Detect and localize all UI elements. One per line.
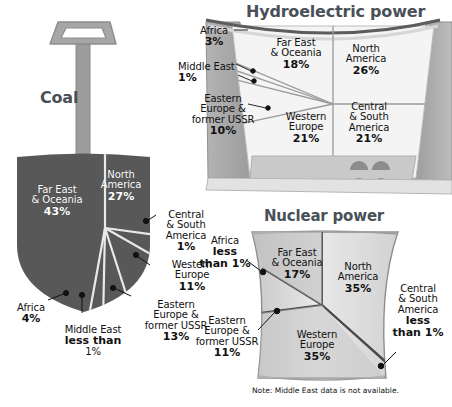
hydro-label-central-south-america: Central & South America 21% — [340, 102, 398, 145]
coal-label-middle-east: Middle East less than 1% — [54, 325, 132, 357]
coal-label-far-east: Far East & Oceania 43% — [22, 185, 92, 217]
nuclear-note: Note: Middle East data is not available. — [252, 386, 399, 395]
hydro-label-western-europe: Western Europe 21% — [278, 112, 334, 144]
nuclear-label-central-south-america: Central & South America less than 1% — [386, 284, 450, 338]
hydro-label-far-east: Far East & Oceania 18% — [265, 38, 327, 70]
dam-tunnel-base-icon — [350, 170, 390, 178]
nuclear-label-eastern-europe: Eastern Europe & former USSR 11% — [190, 316, 264, 359]
hydro-label-africa: Africa 3% — [192, 26, 236, 48]
hydroelectric-title: Hydroelectric power — [246, 2, 425, 21]
dam-spillway-deck-icon — [250, 156, 416, 180]
nuclear-label-africa: Africa less than 1% — [190, 236, 260, 269]
infographic-canvas: Coal Hydroelectric power Nuclear power N… — [0, 0, 452, 407]
coal-title: Coal — [40, 88, 78, 107]
shovel-grip-hole-icon — [61, 28, 106, 38]
nuclear-title: Nuclear power — [264, 207, 384, 225]
nuclear-label-north-america: North America 35% — [330, 262, 386, 294]
hydro-label-eastern-europe: Eastern Europe & former USSR 10% — [186, 94, 260, 137]
dam-apron-icon — [206, 178, 452, 194]
nuclear-label-western-europe: Western Europe 35% — [288, 330, 346, 362]
hydro-label-middle-east: Middle East 1% — [178, 62, 242, 84]
hydro-label-north-america: North America 26% — [336, 44, 396, 76]
nuclear-label-far-east: Far East & Oceania 17% — [268, 248, 326, 280]
coal-label-north-america: North America 27% — [92, 170, 150, 202]
coal-label-africa: Africa 4% — [10, 303, 52, 325]
